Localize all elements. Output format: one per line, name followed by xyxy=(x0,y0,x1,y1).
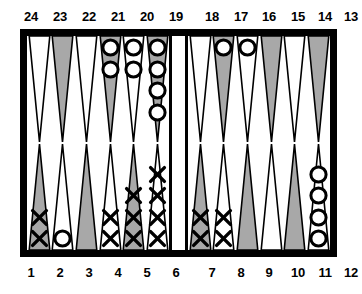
checker-stack-point-12[interactable] xyxy=(307,143,330,250)
checker-o xyxy=(123,59,144,80)
checker-stack-point-8[interactable] xyxy=(212,143,235,250)
checker-x xyxy=(213,228,234,249)
point-16[interactable] xyxy=(236,36,259,143)
checker-stack-point-5[interactable] xyxy=(122,143,145,250)
checker-stack-point-6[interactable] xyxy=(146,143,169,250)
point-7[interactable] xyxy=(189,143,212,250)
center-bar xyxy=(169,36,188,250)
checker-x xyxy=(213,207,234,228)
checker-stack-point-20[interactable] xyxy=(122,36,145,143)
checker-x xyxy=(29,207,50,228)
point-3[interactable] xyxy=(75,143,98,250)
checker-o xyxy=(147,80,168,101)
checker-x xyxy=(100,228,121,249)
checker-stack-point-19[interactable] xyxy=(146,36,169,143)
point-label-bottom-9: 9 xyxy=(258,264,280,282)
point-23[interactable] xyxy=(51,36,74,143)
point-label-top-23: 23 xyxy=(49,8,71,26)
quadrant-bottom-left xyxy=(27,143,169,250)
quadrant-bottom-right xyxy=(188,143,330,250)
checker-x xyxy=(29,228,50,249)
point-label-top-16: 16 xyxy=(258,8,280,26)
point-5[interactable] xyxy=(122,143,145,250)
checker-x xyxy=(123,228,144,249)
point-6[interactable] xyxy=(146,143,169,250)
point-20[interactable] xyxy=(122,36,145,143)
checker-x xyxy=(147,207,168,228)
checker-stack-point-16[interactable] xyxy=(236,36,259,143)
checker-stack-point-21[interactable] xyxy=(99,36,122,143)
point-14[interactable] xyxy=(283,36,306,143)
point-triangle xyxy=(75,36,98,143)
point-2[interactable] xyxy=(51,143,74,250)
point-label-top-19: 19 xyxy=(165,8,187,26)
point-triangle xyxy=(189,36,212,143)
checker-x xyxy=(123,207,144,228)
point-label-bottom-4: 4 xyxy=(107,264,129,282)
board-felt xyxy=(27,36,330,250)
checker-stack-point-17[interactable] xyxy=(212,36,235,143)
point-label-bottom-8: 8 xyxy=(230,264,252,282)
point-triangle xyxy=(236,143,259,250)
checker-o xyxy=(308,207,329,228)
point-triangle xyxy=(51,36,74,143)
quadrant-top-right xyxy=(188,36,330,143)
point-17[interactable] xyxy=(212,36,235,143)
checker-stack-point-2[interactable] xyxy=(51,143,74,250)
point-15[interactable] xyxy=(260,36,283,143)
checker-stack-point-1[interactable] xyxy=(28,143,51,250)
checker-o xyxy=(147,59,168,80)
point-label-top-21: 21 xyxy=(107,8,129,26)
point-label-bottom-6: 6 xyxy=(165,264,187,282)
board-frame xyxy=(20,29,337,257)
quadrant-top-left xyxy=(27,36,169,143)
checker-o xyxy=(147,102,168,123)
checker-o xyxy=(308,185,329,206)
point-1[interactable] xyxy=(28,143,51,250)
point-10[interactable] xyxy=(260,143,283,250)
checker-o xyxy=(147,37,168,58)
point-label-top-18: 18 xyxy=(201,8,223,26)
checker-stack-point-7[interactable] xyxy=(189,143,212,250)
point-triangle xyxy=(260,36,283,143)
checker-o xyxy=(308,228,329,249)
checker-stack-point-4[interactable] xyxy=(99,143,122,250)
bottom-point-labels: 123456789101112 xyxy=(0,264,352,282)
point-label-top-24: 24 xyxy=(20,8,42,26)
point-label-bottom-3: 3 xyxy=(78,264,100,282)
point-4[interactable] xyxy=(99,143,122,250)
point-8[interactable] xyxy=(212,143,235,250)
point-label-bottom-2: 2 xyxy=(49,264,71,282)
checker-x xyxy=(190,207,211,228)
point-triangle xyxy=(283,143,306,250)
point-21[interactable] xyxy=(99,36,122,143)
checker-o xyxy=(123,37,144,58)
point-9[interactable] xyxy=(236,143,259,250)
checker-o xyxy=(100,37,121,58)
point-label-bottom-1: 1 xyxy=(20,264,42,282)
point-13[interactable] xyxy=(307,36,330,143)
checker-x xyxy=(123,185,144,206)
point-label-bottom-11: 11 xyxy=(314,264,336,282)
checker-o xyxy=(213,37,234,58)
point-label-bottom-5: 5 xyxy=(136,264,158,282)
point-12[interactable] xyxy=(307,143,330,250)
point-24[interactable] xyxy=(28,36,51,143)
checker-x xyxy=(190,228,211,249)
checker-x xyxy=(147,164,168,185)
point-label-bottom-10: 10 xyxy=(287,264,309,282)
checker-x xyxy=(147,185,168,206)
point-label-top-22: 22 xyxy=(78,8,100,26)
checker-o xyxy=(237,37,258,58)
checker-o xyxy=(52,228,73,249)
point-label-top-17: 17 xyxy=(230,8,252,26)
point-11[interactable] xyxy=(283,143,306,250)
point-22[interactable] xyxy=(75,36,98,143)
point-label-bottom-12: 12 xyxy=(340,264,362,282)
point-triangle xyxy=(260,143,283,250)
point-triangle xyxy=(28,36,51,143)
point-18[interactable] xyxy=(189,36,212,143)
point-19[interactable] xyxy=(146,36,169,143)
checker-o xyxy=(100,59,121,80)
